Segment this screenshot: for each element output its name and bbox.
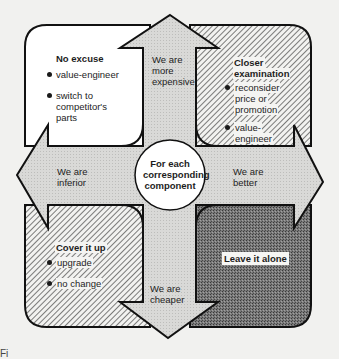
bullet-icon [47, 281, 52, 286]
quadrant-bottom-left-bullet: no change [47, 278, 102, 289]
quadrant-bottom-right-title: Leave it alone [222, 253, 289, 264]
quadrant-bottom-left-title: Cover it up [55, 242, 107, 253]
bullet-icon [47, 260, 52, 265]
quadrant-top-right-title: Closer examination [233, 57, 290, 79]
bullet-icon [47, 72, 52, 77]
quadrant-top-right-bullet: value- engineer [225, 122, 273, 144]
quadrant-top-left-title: No excuse [56, 53, 104, 64]
bullet-icon [225, 85, 230, 90]
bullet-icon [47, 93, 52, 98]
quadrant-bottom-left-bullet: upgrade [47, 257, 93, 268]
figure-caption: Fi [0, 348, 8, 359]
arrow-left-label: We are inferior [57, 166, 87, 188]
quadrant-top-left-bullet: switch to competitor's parts [47, 90, 107, 123]
bullet-icon [225, 125, 230, 130]
quadrant-top-left-bullet: value-engineer [47, 69, 119, 80]
quadrant-top-right-bullet: reconsider price or promotion [225, 82, 280, 115]
arrow-right-label: We are better [233, 166, 263, 188]
center-label: For each corresponding component [143, 158, 197, 191]
arrow-up-label: We are more expensive [152, 54, 195, 87]
arrow-down-label: We are cheaper [150, 283, 184, 305]
